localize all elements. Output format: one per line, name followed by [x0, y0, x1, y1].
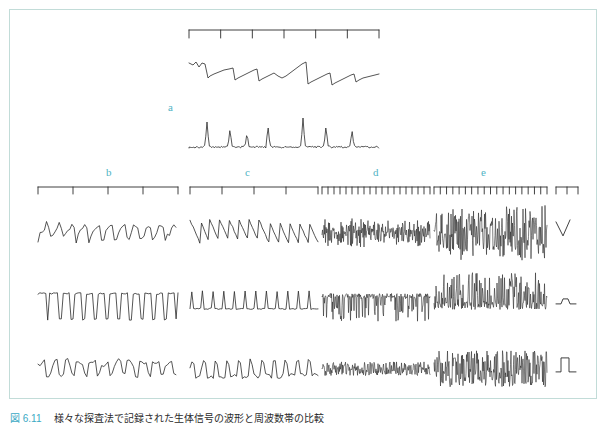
- panel-label-b: b: [106, 166, 112, 178]
- figure-caption: 図 6.11 様々な探査法で記録された生体信号の波形と周波数帯の比較: [10, 410, 605, 428]
- panel-label-c: c: [245, 166, 250, 178]
- figure-frame: [9, 9, 597, 399]
- caption-tag: 図 6.11: [10, 410, 42, 425]
- panel-label-d: d: [373, 166, 379, 178]
- caption-text: 様々な探査法で記録された生体信号の波形と周波数帯の比較: [54, 410, 324, 425]
- panel-label-a: a: [168, 101, 173, 113]
- panel-label-e: e: [481, 166, 486, 178]
